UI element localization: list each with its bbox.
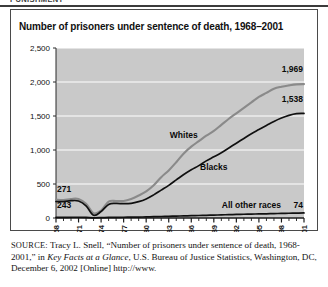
source-note: SOURCE: Tracy L. Snell, “Number of priso…	[11, 240, 317, 275]
page-top-rule	[0, 5, 328, 7]
figure-container: Number of prisoners under sentence of de…	[10, 9, 318, 231]
x-tick-label: 71	[75, 225, 84, 232]
x-tick-label: 89	[210, 225, 219, 232]
series-annotation: All other races	[222, 200, 281, 210]
y-tick-label: 2,000	[30, 78, 51, 87]
y-tick-label: 500	[37, 180, 51, 189]
line-chart-svg: 05001,0001,5002,0002,500 687174778083868…	[11, 10, 319, 232]
x-tick-label: 83	[165, 225, 174, 232]
value-annotation: 1,538	[282, 94, 304, 104]
x-tick-label: 77	[120, 225, 129, 232]
y-axis-ticks: 05001,0001,5002,0002,500	[30, 44, 56, 223]
figure-page: PUNISHMENT Number of prisoners under sen…	[0, 0, 328, 287]
chart-plot-area: 05001,0001,5002,0002,500 687174778083868…	[11, 10, 319, 232]
x-tick-label: 01	[300, 225, 309, 232]
y-tick-label: 2,500	[30, 44, 51, 53]
x-tick-label: 95	[255, 225, 264, 232]
x-tick-label: 86	[187, 225, 196, 232]
series-annotation: Whites	[170, 130, 198, 140]
x-tick-label: 74	[97, 224, 106, 232]
x-tick-label: 92	[232, 225, 241, 232]
y-tick-label: 1,000	[30, 146, 51, 155]
running-header: PUNISHMENT	[10, 0, 130, 4]
x-axis-tick-labels: 687174778083868992959801	[52, 224, 309, 232]
y-tick-label: 0	[46, 214, 51, 223]
y-tick-label: 1,500	[30, 112, 51, 121]
series-annotation: Blacks	[200, 162, 228, 172]
source-label: SOURCE:	[11, 241, 48, 250]
value-annotation: 1,969	[282, 64, 304, 74]
x-tick-label: 80	[142, 225, 151, 232]
source-publication-title: Key Facts at a Glance	[47, 252, 128, 262]
x-tick-label: 98	[277, 225, 286, 232]
value-annotation: 243	[57, 200, 71, 210]
x-tick-label: 68	[52, 225, 61, 232]
value-annotation: 271	[57, 184, 71, 194]
value-annotation: 74	[294, 200, 304, 210]
